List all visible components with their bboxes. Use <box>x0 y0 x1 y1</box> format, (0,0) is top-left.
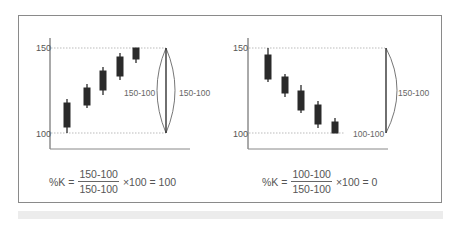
right-tick-100: 100 <box>233 129 248 139</box>
left-chart: 150 100 150-100 150-100 <box>36 38 210 149</box>
left-formula-result: ×100 = 100 <box>123 176 176 188</box>
left-fraction: 150-100 150-100 <box>78 168 119 195</box>
right-range-brace <box>386 48 397 133</box>
left-numerator: 150-100 <box>78 168 119 182</box>
right-outer-range-label: 150-100 <box>398 88 429 98</box>
right-tick-150: 150 <box>233 43 248 53</box>
left-tick-150: 150 <box>36 43 51 53</box>
right-formula: %K = 100-100 150-100 ×100 = 0 <box>262 168 377 195</box>
right-candles <box>265 48 338 133</box>
right-chart: 150 100 100-100 150-100 <box>233 38 429 149</box>
left-outer-range-label: 150-100 <box>179 88 210 98</box>
right-denominator: 150-100 <box>292 182 331 195</box>
candle <box>298 85 304 113</box>
candle <box>282 74 288 97</box>
left-denominator: 150-100 <box>79 182 118 195</box>
candle <box>332 118 338 133</box>
candle <box>84 84 90 108</box>
candle <box>133 48 139 63</box>
left-tick-100: 100 <box>36 129 51 139</box>
right-numerator: 100-100 <box>291 168 332 182</box>
left-inner-range-label: 150-100 <box>124 88 155 98</box>
right-formula-result: ×100 = 0 <box>336 176 377 188</box>
candle <box>64 99 70 133</box>
right-inner-range-label: 100-100 <box>353 129 384 139</box>
left-range-brace <box>157 48 175 133</box>
right-formula-prefix: %K = <box>262 176 287 188</box>
candle <box>100 67 106 95</box>
candle <box>315 101 321 128</box>
left-formula: %K = 150-100 150-100 ×100 = 100 <box>49 168 176 195</box>
left-formula-prefix: %K = <box>49 176 74 188</box>
candle <box>117 53 123 80</box>
right-fraction: 100-100 150-100 <box>291 168 332 195</box>
candle <box>265 48 271 82</box>
